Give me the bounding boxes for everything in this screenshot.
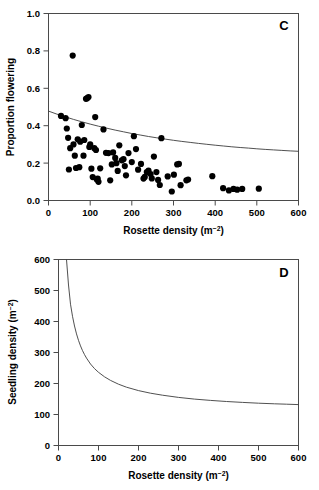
x-tick-label-c: 600	[291, 207, 307, 218]
y-axis-ticks-c	[44, 14, 49, 201]
y-tick-label-d: 400	[34, 316, 50, 327]
y-tick-label-d: 600	[34, 254, 50, 265]
x-axis-ticks-c	[49, 201, 299, 206]
x-tick-label-c: 200	[124, 207, 140, 218]
x-tick-label-d: 500	[251, 452, 267, 463]
y-tick-label-c: 1.0	[27, 8, 40, 19]
y-tick-label-c: 0.6	[27, 83, 40, 94]
y-tick-label-d: 300	[34, 347, 50, 358]
fit-curve-c	[49, 111, 299, 151]
y-tick-label-d: 100	[34, 409, 50, 420]
y-axis-ticks-d	[54, 260, 59, 446]
y-tick-label-d: 500	[34, 285, 50, 296]
x-tick-label-c: 500	[249, 207, 265, 218]
x-tick-label-c: 400	[207, 207, 223, 218]
x-tick-label-d: 600	[291, 452, 307, 463]
panel-d-seedling-density: 600 500 400 300 200 100 0 0 1	[0, 245, 319, 490]
y-tick-label-d: 0	[45, 440, 50, 451]
x-axis-ticks-d	[59, 446, 299, 451]
x-axis-title-d: Rosette density (m−2)	[128, 470, 229, 482]
x-tick-label-d: 400	[211, 452, 227, 463]
panel-letter-c: C	[279, 18, 289, 33]
x-tick-label-d: 300	[171, 452, 187, 463]
y-axis-tick-labels-d: 600 500 400 300 200 100 0	[34, 254, 50, 451]
y-tick-label-d: 200	[34, 378, 50, 389]
y-axis-tick-labels-c: 1.0 0.8 0.6 0.4 0.2 0.0	[27, 8, 41, 206]
x-axis-title-c: Rosette density (m−2)	[123, 225, 224, 237]
x-tick-label-c: 0	[46, 207, 51, 218]
panel-letter-d: D	[279, 265, 288, 280]
y-tick-label-c: 0.4	[27, 120, 41, 131]
model-curve-d	[67, 260, 299, 405]
x-tick-label-c: 300	[166, 207, 182, 218]
y-tick-label-c: 0.8	[27, 45, 40, 56]
figure-panels-c-and-d: 1.0 0.8 0.6 0.4 0.2 0.0 0 100	[0, 0, 319, 490]
y-tick-label-c: 0.0	[27, 195, 40, 206]
x-tick-label-d: 200	[131, 452, 147, 463]
x-axis-tick-labels-d: 0 100 200 300 400 500 600	[56, 452, 307, 463]
plot-frame-d	[59, 260, 299, 446]
x-tick-label-d: 0	[56, 452, 61, 463]
x-tick-label-c: 100	[82, 207, 98, 218]
panel-c-proportion-flowering: 1.0 0.8 0.6 0.4 0.2 0.0 0 100	[0, 0, 319, 245]
x-axis-tick-labels-c: 0 100 200 300 400 500 600	[46, 207, 307, 218]
y-axis-title-d: Seedling density (m−2)	[7, 299, 19, 405]
y-axis-title-c: Proportion flowering	[5, 58, 16, 156]
x-tick-label-d: 100	[91, 452, 107, 463]
y-tick-label-c: 0.2	[27, 158, 40, 169]
